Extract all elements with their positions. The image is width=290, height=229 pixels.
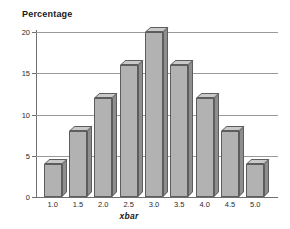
x-tick-label-3.5: 3.5: [174, 200, 184, 209]
bar-side-face: [163, 27, 168, 197]
bar: [246, 164, 264, 197]
bar-front-face: [221, 131, 239, 197]
x-tick-label-1.5: 1.5: [73, 200, 83, 209]
bar-side-face: [239, 126, 244, 197]
bar-front-face: [69, 131, 87, 197]
x-tick-label-3.0: 3.0: [149, 200, 159, 209]
bar: [221, 131, 239, 197]
bar-side-face: [264, 159, 269, 197]
bar-front-face: [196, 98, 214, 197]
chart-screenshot: Percentage 05101520 1.01.52.02.53.03.54.…: [0, 0, 290, 229]
y-tick-label-15: 15: [22, 69, 30, 78]
x-tick-label-2.0: 2.0: [98, 200, 108, 209]
x-axis-title-text: xbar: [119, 211, 138, 221]
bar: [69, 131, 87, 197]
bar-front-face: [246, 164, 264, 197]
x-tick-label-4.0: 4.0: [199, 200, 209, 209]
bar: [120, 65, 138, 197]
bar-front-face: [120, 65, 138, 197]
y-tick-label-20: 20: [22, 28, 30, 37]
bar-side-face: [87, 126, 92, 197]
bar: [44, 164, 62, 197]
bar-side-face: [138, 60, 143, 197]
x-tick-label-4.5: 4.5: [225, 200, 235, 209]
x-axis-title: xbar: [0, 211, 290, 221]
x-tick-label-2.5: 2.5: [123, 200, 133, 209]
bar-side-face: [214, 93, 219, 197]
bar: [170, 65, 188, 197]
x-tick-label-5.0: 5.0: [250, 200, 260, 209]
axis-baseline: [36, 197, 278, 198]
y-tick-label-0: 0: [26, 193, 30, 202]
y-tick-label-10: 10: [22, 110, 30, 119]
bar-front-face: [145, 32, 163, 197]
plot-area: [36, 30, 278, 198]
bar-front-face: [170, 65, 188, 197]
y-axis-labels: 05101520: [0, 0, 30, 229]
bar: [145, 32, 163, 197]
bar-side-face: [62, 159, 67, 197]
bar-front-face: [94, 98, 112, 197]
bar-side-face: [188, 60, 193, 197]
bar: [94, 98, 112, 197]
bar: [196, 98, 214, 197]
y-tick-label-5: 5: [26, 151, 30, 160]
x-tick-label-1.0: 1.0: [47, 200, 57, 209]
bar-side-face: [112, 93, 117, 197]
bar-front-face: [44, 164, 62, 197]
